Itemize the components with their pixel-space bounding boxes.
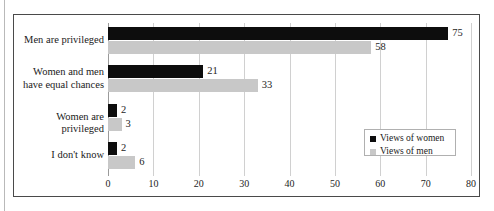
bar-women <box>108 104 117 117</box>
value-label-women: 75 <box>452 26 463 39</box>
value-label-women: 21 <box>207 64 218 77</box>
bar-men <box>108 118 122 131</box>
category-label: Men are privileged <box>12 34 104 47</box>
legend-label-views-of-men: Views of men <box>380 146 433 157</box>
bar-women <box>108 65 203 78</box>
x-tick-60: 60 <box>375 178 385 189</box>
category-label-line: Men are privileged <box>12 34 104 47</box>
x-tick-0: 0 <box>106 178 111 189</box>
category-label-line: have equal chances <box>12 79 104 92</box>
legend-swatch-views-of-men <box>370 149 376 155</box>
value-label-men: 58 <box>375 40 386 53</box>
legend-item-views-of-women: Views of women <box>370 133 455 144</box>
category-label-line: Women and men <box>12 66 104 79</box>
x-tick-50: 50 <box>330 178 340 189</box>
value-label-women: 2 <box>121 141 126 154</box>
value-label-men: 3 <box>126 117 131 130</box>
chart-frame: Men are privileged7558Women and menhave … <box>13 14 480 197</box>
value-label-men: 33 <box>262 78 273 91</box>
category-label: Women are privileged <box>12 111 104 136</box>
x-tick-80: 80 <box>466 178 476 189</box>
bar-group: Women are privileged23 <box>108 104 471 132</box>
bar-men <box>108 79 258 92</box>
bar-women <box>108 27 448 40</box>
category-label-line: I don't know <box>12 149 104 162</box>
bar-group: Women and menhave equal chances2133 <box>108 65 471 93</box>
legend-label-views-of-women: Views of women <box>380 133 444 144</box>
cut-off-caption-sliver: igure <box>10 0 480 7</box>
legend-item-views-of-men: Views of men <box>370 146 455 157</box>
page-margin-rule <box>4 0 5 211</box>
x-tick-10: 10 <box>148 178 158 189</box>
value-label-women: 2 <box>121 103 126 116</box>
x-tick-30: 30 <box>239 178 249 189</box>
category-label: I don't know <box>12 149 104 162</box>
x-axis-tick-labels: 01020304050607080 <box>108 178 471 192</box>
gridline-80 <box>471 23 472 176</box>
category-label: Women and menhave equal chances <box>12 66 104 91</box>
legend: Views of women Views of men <box>364 129 456 156</box>
bar-group: Men are privileged7558 <box>108 27 471 55</box>
bar-men <box>108 156 135 169</box>
bar-women <box>108 142 117 155</box>
category-label-line: Women are privileged <box>12 111 104 136</box>
legend-swatch-views-of-women <box>370 136 376 142</box>
x-tick-70: 70 <box>421 178 431 189</box>
bar-men <box>108 41 371 54</box>
value-label-men: 6 <box>139 155 144 168</box>
x-tick-40: 40 <box>285 178 295 189</box>
x-tick-20: 20 <box>194 178 204 189</box>
